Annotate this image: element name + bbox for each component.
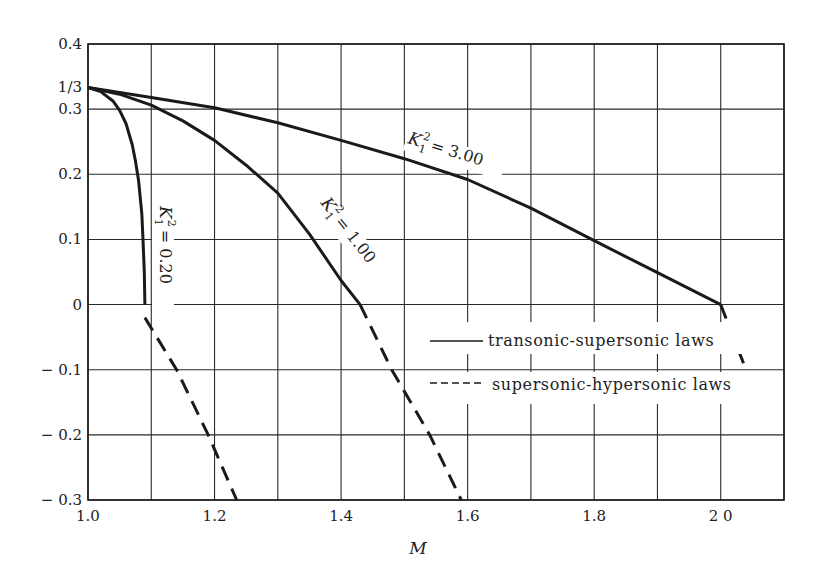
y-tick-label: 1/3 bbox=[58, 78, 82, 96]
x-tick-label: 1.6 bbox=[456, 507, 480, 525]
x-tick-label: 2 0 bbox=[709, 507, 733, 525]
plot-frame bbox=[88, 44, 784, 500]
x-tick-label: 1.4 bbox=[329, 507, 353, 525]
x-tick-label: 1.0 bbox=[76, 507, 100, 525]
curve-solid-2 bbox=[88, 88, 360, 305]
y-tick-label: 0 bbox=[72, 296, 82, 314]
curve-label-k300: K12= 3.00 bbox=[403, 125, 508, 180]
y-tick-label: 0.3 bbox=[58, 100, 82, 118]
curve-solid-0 bbox=[88, 88, 145, 305]
chart-canvas: 0.41/30.30.20.10− 0.1− 0.2− 0.3 1.01.21.… bbox=[0, 0, 814, 581]
y-tick-label: 0.2 bbox=[58, 165, 82, 183]
y-tick-label: 0.4 bbox=[58, 35, 82, 53]
svg-text:K12= 1.00: K12= 1.00 bbox=[313, 191, 382, 269]
x-axis-title: M bbox=[408, 538, 427, 558]
x-tick-label: 1.8 bbox=[582, 507, 606, 525]
svg-text:K12= 3.00: K12= 3.00 bbox=[404, 125, 487, 173]
y-tick-label: 0.1 bbox=[58, 230, 82, 248]
grid bbox=[88, 44, 784, 500]
y-axis-ticks: 0.41/30.30.20.10− 0.1− 0.2− 0.3 bbox=[41, 35, 82, 509]
legend: transonic-supersonic laws supersonic-hyp… bbox=[426, 322, 782, 404]
y-tick-label: − 0.2 bbox=[41, 426, 82, 444]
curve-dashed-1 bbox=[145, 318, 237, 500]
plot-border bbox=[88, 44, 784, 500]
y-tick-label: − 0.1 bbox=[41, 361, 82, 379]
legend-solid-label: transonic-supersonic laws bbox=[488, 331, 714, 350]
x-axis-ticks: 1.01.21.41.61.82 0 bbox=[76, 507, 733, 525]
curve-label-k100: K12= 1.00 bbox=[312, 190, 395, 286]
legend-dashed-label: supersonic-hypersonic laws bbox=[492, 375, 732, 394]
curve-label-k020: K12= 0.20 bbox=[152, 204, 178, 306]
chart: 0.41/30.30.20.10− 0.1− 0.2− 0.3 1.01.21.… bbox=[0, 0, 814, 581]
x-tick-label: 1.2 bbox=[203, 507, 227, 525]
